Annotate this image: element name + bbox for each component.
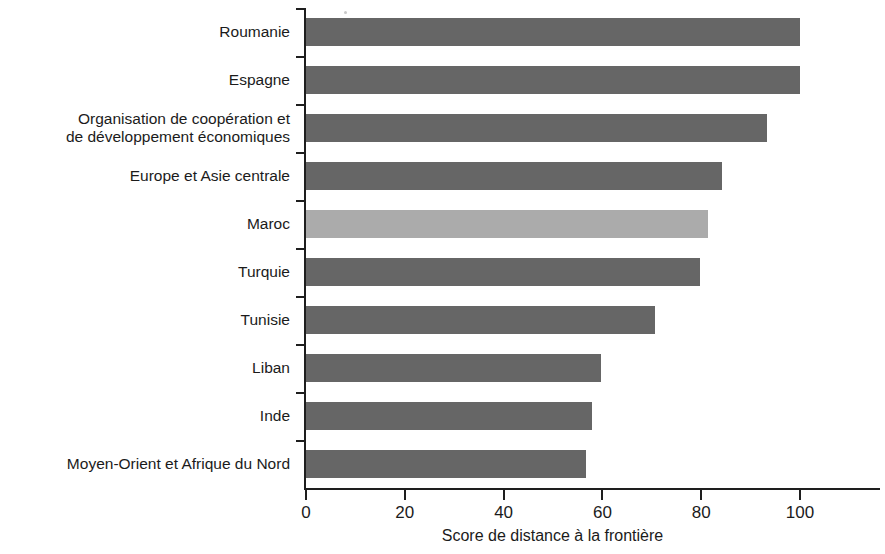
bar [306, 162, 722, 190]
y-axis-tick [296, 8, 305, 10]
x-axis-line [304, 488, 880, 490]
x-axis-tick [799, 490, 801, 500]
x-axis-tick [305, 490, 307, 500]
chart-row: Turquie [0, 248, 885, 296]
chart-row: Tunisie [0, 296, 885, 344]
bar [306, 258, 700, 286]
y-axis-tick [296, 248, 305, 250]
bar [306, 306, 655, 334]
x-axis-tick-label: 20 [375, 503, 435, 523]
x-axis-tick-label: 60 [572, 503, 632, 523]
y-axis-tick [296, 344, 305, 346]
category-label: Inde [0, 407, 290, 426]
bar [306, 354, 601, 382]
category-label: Espagne [0, 71, 290, 90]
x-axis-tick [404, 490, 406, 500]
chart-row: Organisation de coopération et de dévelo… [0, 104, 885, 152]
chart-row: Inde [0, 392, 885, 440]
chart-row: Liban [0, 344, 885, 392]
x-axis-tick-label: 0 [276, 503, 336, 523]
category-label: Maroc [0, 215, 290, 234]
bar [306, 402, 592, 430]
category-label: Europe et Asie centrale [0, 167, 290, 186]
chart-row: Roumanie [0, 8, 885, 56]
chart-row: Espagne [0, 56, 885, 104]
y-axis-tick [296, 56, 305, 58]
x-axis-tick [503, 490, 505, 500]
x-axis-title: Score de distance à la frontière [305, 527, 800, 545]
bar-highlight [306, 210, 708, 238]
x-axis-tick-label: 80 [671, 503, 731, 523]
bar [306, 114, 767, 142]
x-axis-tick [601, 490, 603, 500]
chart-row: Maroc [0, 200, 885, 248]
y-axis-tick [296, 152, 305, 154]
y-axis-tick [296, 200, 305, 202]
category-label: Roumanie [0, 23, 290, 42]
category-label: Moyen-Orient et Afrique du Nord [0, 455, 290, 474]
category-label: Turquie [0, 263, 290, 282]
bar [306, 450, 586, 478]
y-axis-tick [296, 440, 305, 442]
y-axis-tick [296, 296, 305, 298]
bar [306, 66, 800, 94]
category-label: Tunisie [0, 311, 290, 330]
bar [306, 18, 800, 46]
chart-row: Moyen-Orient et Afrique du Nord [0, 440, 885, 488]
y-axis-tick [296, 104, 305, 106]
chart-row: Europe et Asie centrale [0, 152, 885, 200]
y-axis-tick [296, 392, 305, 394]
bar-chart: RoumanieEspagneOrganisation de coopérati… [0, 0, 885, 554]
category-label: Organisation de coopération et de dévelo… [0, 110, 290, 147]
x-axis-tick-label: 100 [770, 503, 830, 523]
x-axis-tick-label: 40 [474, 503, 534, 523]
x-axis-tick [700, 490, 702, 500]
category-label: Liban [0, 359, 290, 378]
